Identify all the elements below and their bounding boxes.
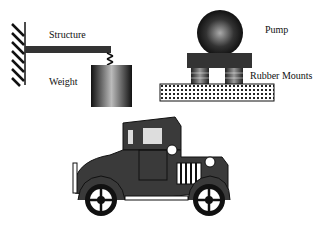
structure-label: Structure — [49, 30, 86, 40]
pump-sphere — [197, 10, 243, 56]
structure-beam — [25, 46, 111, 53]
weight-block — [91, 65, 132, 107]
rubber-mounts-label: Rubber Mounts — [250, 71, 313, 81]
pump-base-plate — [187, 53, 252, 68]
weight-label: Weight — [49, 77, 78, 87]
rear-wheel — [85, 184, 117, 216]
pump-label: Pump — [265, 25, 288, 35]
car-icon — [73, 117, 230, 216]
wall-icon — [12, 22, 25, 86]
rubber-mounts — [191, 68, 243, 84]
front-wheel — [193, 184, 225, 216]
foundation — [160, 84, 274, 101]
spring-icon — [107, 53, 113, 65]
